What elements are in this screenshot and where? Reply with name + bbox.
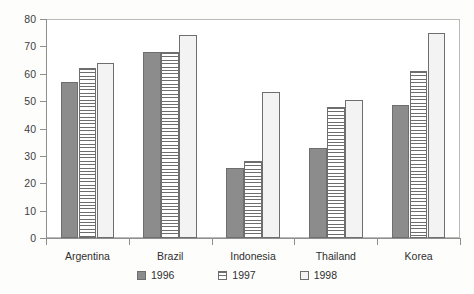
x-axis-line	[46, 238, 461, 239]
bar-korea-1996	[392, 105, 410, 238]
bar-indonesia-1996	[226, 168, 244, 238]
bar-korea-1998	[428, 33, 446, 238]
bar-brazil-1997	[161, 52, 179, 238]
x-axis-tick	[212, 239, 213, 245]
legend-item-1998: 1998	[300, 270, 337, 281]
bar-argentina-1996	[61, 82, 79, 238]
bar-korea-1997	[410, 71, 428, 238]
y-axis-label: 40	[10, 124, 36, 134]
bar-indonesia-1997	[244, 161, 262, 238]
legend-label: 1996	[151, 270, 174, 281]
y-axis-label: 60	[10, 69, 36, 79]
x-axis-tick	[377, 239, 378, 245]
x-axis-tick	[294, 239, 295, 245]
y-axis-label: 10	[10, 206, 36, 216]
x-axis-tick	[129, 239, 130, 245]
chart-legend: 199619971998	[0, 270, 474, 281]
bars-layer	[46, 19, 460, 238]
bar-brazil-1996	[143, 52, 161, 238]
y-axis-label: 30	[10, 151, 36, 161]
x-axis-label-brazil: Brazil	[129, 250, 212, 262]
x-axis-label-thailand: Thailand	[294, 250, 377, 262]
legend-swatch-icon	[218, 271, 227, 280]
bar-thailand-1997	[327, 107, 345, 238]
x-axis-label-indonesia: Indonesia	[212, 250, 295, 262]
bar-indonesia-1998	[262, 92, 280, 238]
y-axis-label: 70	[10, 41, 36, 51]
legend-item-1997: 1997	[218, 270, 255, 281]
bar-brazil-1998	[179, 35, 197, 238]
legend-label: 1997	[232, 270, 255, 281]
x-axis-tick	[46, 239, 47, 245]
legend-item-1996: 1996	[137, 270, 174, 281]
legend-label: 1998	[314, 270, 337, 281]
bar-argentina-1997	[79, 68, 97, 238]
legend-swatch-icon	[300, 271, 309, 280]
x-axis-label-argentina: Argentina	[46, 250, 129, 262]
bar-argentina-1998	[97, 63, 115, 238]
x-axis-label-korea: Korea	[377, 250, 460, 262]
bar-chart: 80706050403020100 ArgentinaBrazilIndones…	[0, 0, 474, 294]
y-axis-label: 20	[10, 178, 36, 188]
legend-swatch-icon	[137, 271, 146, 280]
y-axis-label: 0	[10, 233, 36, 243]
bar-thailand-1996	[309, 148, 327, 238]
x-axis-tick	[460, 239, 461, 245]
bar-thailand-1998	[345, 100, 363, 238]
y-axis-label: 50	[10, 96, 36, 106]
y-axis-label: 80	[10, 14, 36, 24]
